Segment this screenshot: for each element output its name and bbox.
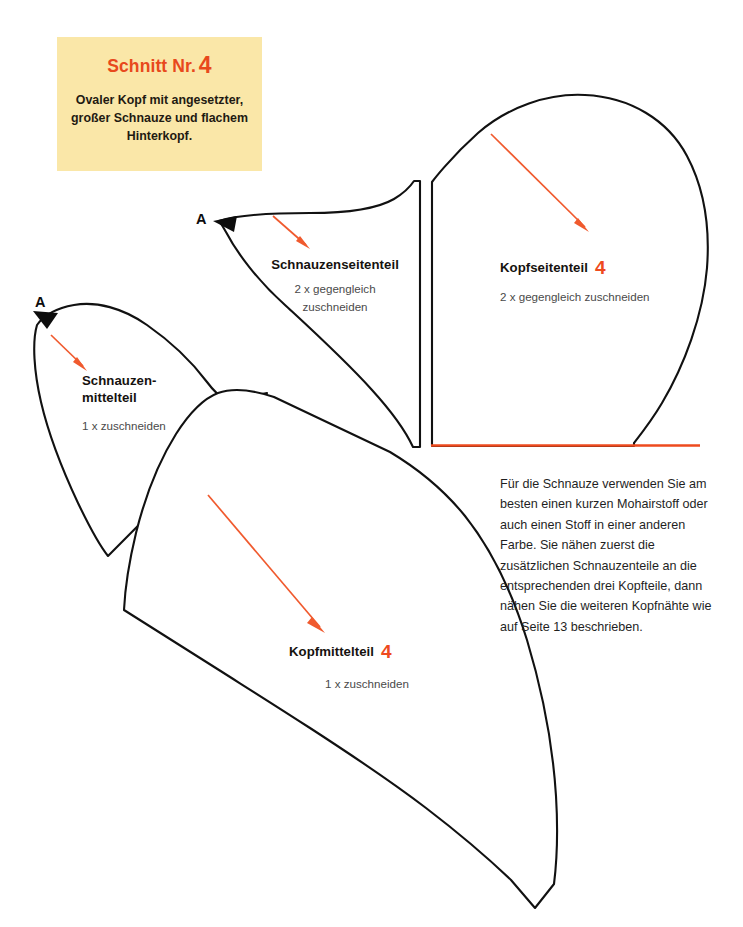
piece-label-schnauzenseitenteil: Schnauzenseitenteil 2 x gegengleich zusc… [262,256,408,316]
info-box-title-number: 4 [199,52,212,78]
instruction-paragraph: Für die Schnauze verwenden Sie am besten… [500,474,722,637]
piece-name-kopfmittelteil: Kopfmittelteil4 [289,640,439,665]
piece-note-schnauzenseitenteil: 2 x gegengleich zuschneiden [262,280,408,316]
piece-note-schnauzenmittelteil: 1 x zuschneiden [82,417,198,435]
piece-name-text: Kopfseitenteil [500,260,588,275]
piece-name-schnauzenseitenteil: Schnauzenseitenteil [262,256,408,273]
piece-label-kopfseitenteil: Kopfseitenteil4 2 x gegengleich zuschnei… [500,256,660,306]
marker-label-a-top: A [196,211,206,227]
piece-number-badge: 4 [381,641,392,662]
piece-number-badge: 4 [595,257,606,278]
piece-name-kopfseitenteil: Kopfseitenteil4 [500,256,660,281]
piece-note-kopfmittelteil: 1 x zuschneiden [289,675,439,693]
pattern-sheet: Schnitt Nr.4 Ovaler Kopf mit angesetzter… [0,0,743,927]
info-box-title-text: Schnitt Nr. [107,56,196,76]
piece-label-kopfmittelteil: Kopfmittelteil4 1 x zuschneiden [289,640,439,693]
marker-label-a-left: A [35,294,45,310]
piece-name-text: Kopfmittelteil [289,644,374,659]
piece-label-schnauzenmittelteil: Schnauzen- mittelteil 1 x zuschneiden [82,372,198,435]
info-box-title: Schnitt Nr.4 [57,53,262,78]
info-box-description: Ovaler Kopf mit angesetzter, großer Schn… [57,92,262,145]
info-box: Schnitt Nr.4 Ovaler Kopf mit angesetzter… [57,37,262,171]
piece-name-schnauzenmittelteil: Schnauzen- mittelteil [82,372,198,407]
piece-note-kopfseitenteil: 2 x gegengleich zuschneiden [500,288,660,306]
piece-name-text: Schnauzenseitenteil [271,257,399,272]
